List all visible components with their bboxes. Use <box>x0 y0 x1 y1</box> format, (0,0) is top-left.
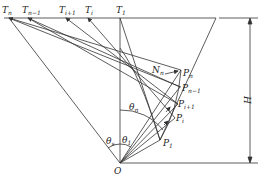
label-pn: Pn <box>182 68 193 79</box>
label-theta-s: θs <box>106 136 115 147</box>
ray-o-pn <box>120 70 181 163</box>
left-boundary-line <box>9 18 120 163</box>
label-pn-1: Pn−1 <box>181 83 201 94</box>
fan-line-1 <box>9 18 181 87</box>
label-tn: Tn <box>2 5 12 16</box>
line-p1-t1 <box>120 18 160 140</box>
label-nn: Nn <box>151 65 164 76</box>
label-t1: T1 <box>116 5 126 16</box>
label-ti-1: Ti+1 <box>59 5 76 16</box>
right-boundary-line <box>160 18 216 140</box>
label-theta-1: θ1 <box>122 135 131 146</box>
line-pn1-tn1 <box>28 18 180 87</box>
label-pi: Pi <box>175 113 184 124</box>
label-ti: Ti <box>85 5 93 16</box>
label-pi-1: Pi+1 <box>177 99 195 110</box>
ray-o-pi1 <box>120 104 178 163</box>
slip-line-diagram: Tn Tn−1 Ti+1 Ti T1 Nn Pn Pn−1 Pi+1 Pi P1… <box>0 0 263 179</box>
label-theta-n: θn <box>129 102 138 113</box>
normal-arrow-nn <box>165 71 178 74</box>
line-pi1-ti1 <box>66 18 178 104</box>
theta-n-arc <box>120 110 163 130</box>
label-p1: P1 <box>162 138 173 149</box>
label-tn-1: Tn−1 <box>22 5 41 16</box>
fan-line-2 <box>28 18 178 104</box>
label-height-h: H <box>242 95 252 104</box>
label-origin-o: O <box>114 166 122 176</box>
